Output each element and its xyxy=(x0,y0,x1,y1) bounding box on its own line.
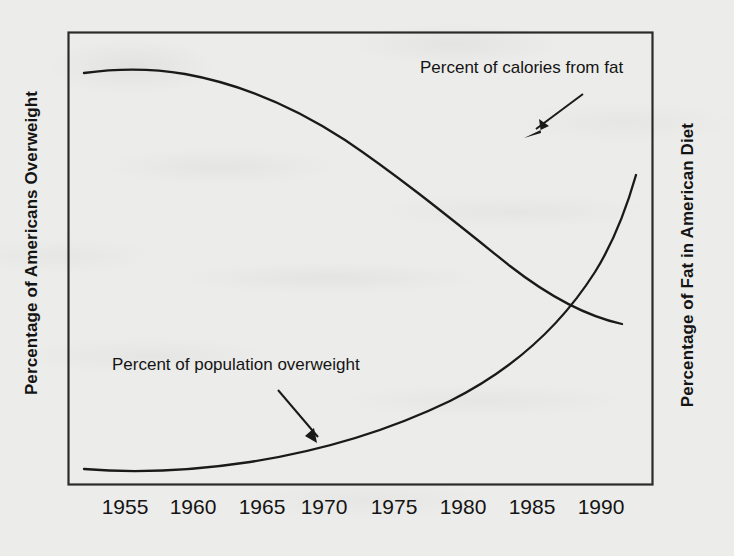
series-line-percent-population-overweight xyxy=(84,175,636,471)
series-line-percent-calories-from-fat xyxy=(84,69,622,324)
y-axis-right-title: Percentage of Fat in American Diet xyxy=(678,30,704,500)
chart-plot-area xyxy=(0,0,734,556)
y-axis-left-title: Percentage of Americans Overweight xyxy=(22,8,48,478)
x-tick-label-1965: 1965 xyxy=(231,495,293,519)
x-tick-label-1990: 1990 xyxy=(570,495,632,519)
chart-page: Percentage of Americans Overweight Perce… xyxy=(0,0,734,556)
annotation-label-percent-population-overweight: Percent of population overweight xyxy=(112,355,360,375)
annotation-arrow-overweight xyxy=(278,390,329,450)
x-tick-label-1970: 1970 xyxy=(293,495,355,519)
x-tick-label-1955: 1955 xyxy=(94,495,156,519)
x-tick-label-1985: 1985 xyxy=(501,495,563,519)
x-tick-label-1980: 1980 xyxy=(432,495,494,519)
x-tick-label-1960: 1960 xyxy=(162,495,224,519)
annotation-arrow-fat xyxy=(524,94,583,138)
annotation-label-percent-calories-from-fat: Percent of calories from fat xyxy=(420,58,623,78)
plot-frame xyxy=(69,33,653,485)
x-tick-label-1975: 1975 xyxy=(363,495,425,519)
